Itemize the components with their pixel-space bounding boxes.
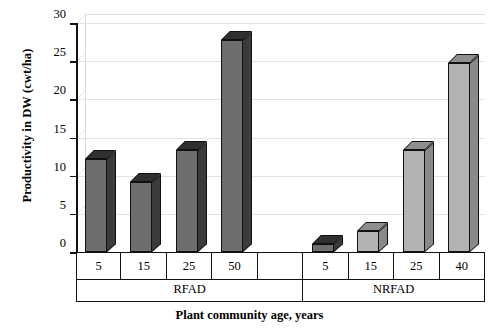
y-tick-label-5: 5 [28,198,66,213]
y-tick-label-25: 25 [28,45,66,60]
y-tick-30 [70,23,76,25]
y-tick-label-20: 20 [28,83,66,98]
bar-side-face [243,32,252,252]
category-table: 51525505152540 RFADNRFAD [76,252,485,302]
plot-area [76,14,485,252]
bar-chart: Productivity in DW (cwt/ha) 051015202530… [0,0,499,330]
bar-rfad-5 [85,159,107,252]
bar-rfad-50 [221,40,243,252]
group-row: RFADNRFAD [76,278,485,302]
category-cell-50-3: 50 [212,253,257,279]
y-tick-5 [70,214,76,216]
gridline-15 [76,138,485,139]
category-cell-15-6: 15 [349,253,394,279]
category-cell-5-0: 5 [76,253,121,279]
category-cell-25-2: 25 [167,253,212,279]
x-axis-title: Plant community age, years [0,308,499,323]
category-cell-25-7: 25 [394,253,439,279]
bar-nrfad-5 [312,244,334,252]
bar-nrfad-15 [357,231,379,252]
y-tick-label-15: 15 [28,122,66,137]
bar-front-face [130,182,152,252]
bar-front-face [357,231,379,252]
category-row: 51525505152540 [76,252,485,280]
y-tick-25 [70,61,76,63]
bar-side-face [107,151,116,252]
bar-front-face [312,244,334,252]
bar-side-face [152,174,161,252]
y-tick-15 [70,138,76,140]
group-label-nrfad: NRFAD [303,278,485,302]
bar-side-face [425,142,434,252]
gridline-30 [76,23,485,24]
bar-rfad-15 [130,182,152,252]
y-tick-label-10: 10 [28,160,66,175]
gridline-20 [76,99,485,100]
category-cell-40-8: 40 [440,253,485,279]
bar-front-face [448,63,470,252]
y-axis-line [76,23,78,253]
y-tick-20 [70,99,76,101]
back-wall-top-edge [85,14,485,15]
bar-nrfad-25 [403,150,425,252]
category-cell-15-1: 15 [121,253,166,279]
category-cell-blank-4 [258,253,303,279]
bar-side-face [198,142,207,252]
bar-side-face [470,55,479,252]
group-label-rfad: RFAD [76,278,303,302]
bar-rfad-25 [176,150,198,252]
y-tick-label-30: 30 [28,7,66,22]
bar-front-face [403,150,425,252]
bar-nrfad-40 [448,63,470,252]
bar-front-face [85,159,107,252]
y-tick-label-0: 0 [28,236,66,251]
y-tick-10 [70,176,76,178]
category-cell-5-5: 5 [303,253,348,279]
bar-front-face [221,40,243,252]
gridline-25 [76,61,485,62]
bar-front-face [176,150,198,252]
